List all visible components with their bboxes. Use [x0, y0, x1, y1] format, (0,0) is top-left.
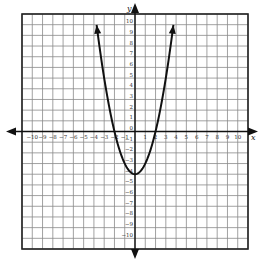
x-tick-label: −9 — [38, 134, 47, 140]
x-tick-label: −10 — [26, 134, 38, 140]
y-tick-label: 4 — [130, 82, 134, 88]
x-tick-label: 10 — [234, 134, 241, 140]
x-tick-label: 3 — [164, 134, 168, 140]
x-tick-label: 8 — [215, 134, 219, 140]
arrow-down-icon — [131, 249, 139, 259]
y-tick-label: 6 — [130, 61, 134, 67]
y-tick-label: 8 — [130, 40, 134, 46]
x-tick-label: 9 — [226, 134, 230, 140]
y-tick-label: 0 — [130, 125, 134, 131]
y-tick-label: 7 — [130, 50, 134, 56]
y-tick-label: −1 — [125, 136, 133, 142]
y-tick-label: −6 — [125, 189, 134, 195]
x-tick-label: 7 — [205, 134, 209, 140]
x-tick-label: 1 — [144, 134, 148, 140]
x-tick-label: −3 — [100, 134, 109, 140]
y-tick-label: −9 — [125, 221, 134, 227]
tick-labels: −10−9−8−7−6−5−4−3−2−11234567891010987654… — [26, 18, 241, 238]
y-axis-label: y — [126, 4, 132, 13]
arrow-up-icon — [131, 3, 139, 13]
y-tick-label: 1 — [130, 114, 134, 120]
y-tick-label: −10 — [121, 232, 133, 238]
x-tick-label: 5 — [185, 134, 189, 140]
y-tick-label: −7 — [125, 200, 134, 206]
y-tick-label: 3 — [130, 93, 134, 99]
x-tick-label: 4 — [174, 134, 178, 140]
x-tick-label: −5 — [80, 134, 89, 140]
y-tick-label: −3 — [125, 157, 134, 163]
y-tick-label: 5 — [130, 72, 134, 78]
x-tick-label: −8 — [49, 134, 58, 140]
x-tick-label: 6 — [195, 134, 199, 140]
y-tick-label: −5 — [125, 178, 134, 184]
x-tick-label: −6 — [69, 134, 78, 140]
y-tick-label: 2 — [130, 104, 134, 110]
x-axis-label: x — [251, 133, 256, 142]
arrow-left-icon — [6, 128, 16, 136]
y-tick-label: 10 — [126, 18, 133, 24]
coordinate-plane: −10−9−8−7−6−5−4−3−2−11234567891010987654… — [0, 0, 261, 260]
x-tick-label: −7 — [59, 134, 68, 140]
y-tick-label: −2 — [125, 146, 133, 152]
y-tick-label: −8 — [125, 210, 134, 216]
x-tick-label: −4 — [90, 134, 99, 140]
y-tick-label: 9 — [130, 29, 134, 35]
